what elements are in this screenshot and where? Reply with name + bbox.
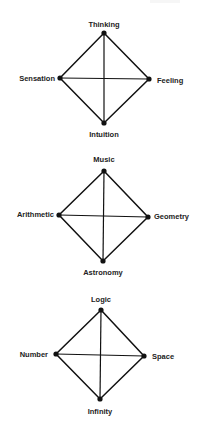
diamond-mathematical-concepts — [53, 307, 146, 401]
node-number — [53, 351, 58, 356]
label-feeling: Feeling — [157, 77, 183, 85]
diagram-canvas: Thinking Sensation Feeling Intuition Mus… — [0, 0, 204, 430]
label-space: Space — [152, 353, 174, 361]
diamond-quadrivium — [56, 168, 150, 263]
node-thinking — [101, 30, 106, 35]
node-infinity — [97, 396, 102, 401]
node-feeling — [146, 76, 151, 81]
label-music: Music — [93, 156, 114, 164]
node-music — [101, 168, 106, 173]
label-astronomy: Astronomy — [83, 269, 123, 277]
node-astronomy — [100, 258, 105, 263]
node-sensation — [57, 75, 62, 80]
diamond-psychological-functions — [57, 30, 151, 125]
label-intuition: Intuition — [89, 131, 119, 139]
node-arithmetic — [56, 212, 61, 217]
label-number: Number — [20, 351, 48, 359]
label-sensation: Sensation — [19, 75, 55, 83]
label-thinking: Thinking — [88, 21, 119, 29]
node-intuition — [101, 120, 106, 125]
node-geometry — [145, 214, 150, 219]
horizontal-axis — [60, 78, 149, 79]
label-arithmetic: Arithmetic — [17, 211, 54, 219]
label-infinity: Infinity — [88, 408, 113, 416]
node-space — [141, 353, 146, 358]
label-geometry: Geometry — [154, 213, 189, 221]
label-logic: Logic — [91, 296, 111, 304]
node-logic — [98, 307, 103, 312]
